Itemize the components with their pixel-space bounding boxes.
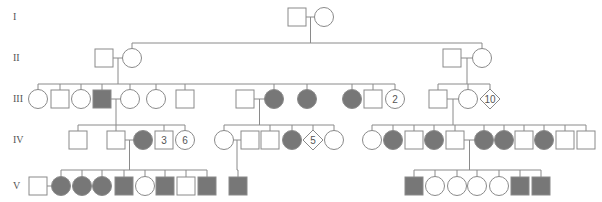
individual-circle-affected xyxy=(298,90,317,109)
individual-square xyxy=(364,90,382,108)
individual-square xyxy=(241,131,259,149)
individual-square-affected xyxy=(511,177,529,195)
sibling-count: 5 xyxy=(310,135,316,146)
individual-circle xyxy=(473,49,492,68)
individual-circle xyxy=(123,49,142,68)
individual-square xyxy=(177,177,195,195)
individual-circle xyxy=(136,177,155,196)
individual-circle-affected xyxy=(425,131,444,150)
individual-square xyxy=(446,131,464,149)
sibling-count: 2 xyxy=(392,94,398,105)
individual-circle xyxy=(448,177,467,196)
individual-circle xyxy=(325,131,344,150)
individual-square xyxy=(405,131,423,149)
individual-square xyxy=(107,131,125,149)
individual-circle-affected xyxy=(283,131,302,150)
individual-square xyxy=(261,131,279,149)
sibling-count: 6 xyxy=(182,135,188,146)
individual-circle xyxy=(147,90,166,109)
individual-diamond: 10 xyxy=(480,89,500,109)
individual-square xyxy=(556,131,574,149)
individual-circle xyxy=(490,177,509,196)
individual-square-affected xyxy=(405,177,423,195)
individual-square-affected xyxy=(532,177,550,195)
individual-square xyxy=(288,8,306,26)
individual-square xyxy=(236,90,254,108)
pedigree-svg: 210365 xyxy=(0,0,602,202)
individual-circle-affected xyxy=(52,177,71,196)
individual-square: 3 xyxy=(155,131,173,149)
individual-square xyxy=(429,90,447,108)
individual-circle xyxy=(29,90,48,109)
individual-circle xyxy=(468,177,487,196)
individual-circle-affected xyxy=(495,131,514,150)
individual-circle xyxy=(121,90,140,109)
sibling-count: 3 xyxy=(161,135,167,146)
individual-square xyxy=(95,49,113,67)
individual-square xyxy=(515,131,533,149)
individual-square-affected xyxy=(229,177,247,195)
individual-square xyxy=(443,49,461,67)
individual-circle-affected xyxy=(134,131,153,150)
individual-square xyxy=(51,90,69,108)
individual-square xyxy=(29,177,47,195)
individual-circle-affected xyxy=(265,90,284,109)
individual-circle xyxy=(426,177,445,196)
individual-square-affected xyxy=(115,177,133,195)
individual-circle xyxy=(315,8,334,27)
individual-circle: 2 xyxy=(386,90,405,109)
individual-circle-affected xyxy=(343,90,362,109)
individual-circle-affected xyxy=(93,177,112,196)
individual-circle xyxy=(363,131,382,150)
individual-square xyxy=(176,90,194,108)
individual-circle: 6 xyxy=(176,131,195,150)
individual-circle-affected xyxy=(475,131,494,150)
individual-square-affected xyxy=(93,90,111,108)
individual-diamond: 5 xyxy=(303,130,323,150)
pedigree-chart: IIIIIIIVV 210365 xyxy=(0,0,602,202)
individual-square xyxy=(577,131,595,149)
individual-square xyxy=(69,131,87,149)
sibling-count: 10 xyxy=(484,94,496,105)
individual-square-affected xyxy=(156,177,174,195)
individual-circle xyxy=(215,131,234,150)
individual-circle-affected xyxy=(73,177,92,196)
individual-circle-affected xyxy=(384,131,403,150)
individual-circle xyxy=(459,90,478,109)
individual-circle-affected xyxy=(535,131,554,150)
individual-square-affected xyxy=(198,177,216,195)
individual-circle xyxy=(72,90,91,109)
